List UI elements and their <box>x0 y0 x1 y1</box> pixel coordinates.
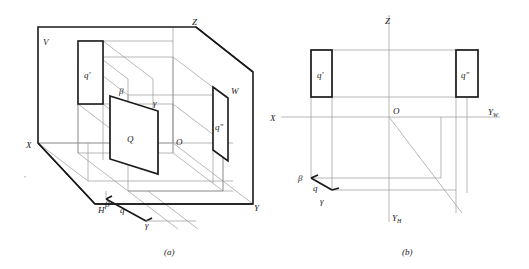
label-plane-v: V <box>43 37 50 47</box>
label-b-q-top: q <box>313 183 318 193</box>
figure-svg: V H W X Y Z O Q q' q″ q β γ β γ ' (a) <box>0 0 529 269</box>
caption-a: (a) <box>164 247 175 257</box>
label-b-beta: β <box>297 173 303 183</box>
label-b-axis-yh: YH <box>392 213 402 224</box>
label-b-axis-z: Z <box>385 16 391 26</box>
label-plane-w: W <box>231 86 240 96</box>
panel-a-group: V H W X Y Z O Q q' q″ q β γ β γ ' (a) <box>24 17 260 257</box>
label-axis-y: Y <box>254 203 260 213</box>
label-axis-z: Z <box>192 17 198 27</box>
label-b-origin: O <box>393 106 400 116</box>
label-b-q-front: q' <box>317 70 325 80</box>
caption-b: (b) <box>402 247 413 257</box>
label-q-front: q' <box>84 70 92 80</box>
label-plane-h: H <box>97 205 105 215</box>
stray-mark: ' <box>24 175 26 181</box>
label-beta-lower: β <box>104 199 110 209</box>
label-axis-x: X <box>25 140 32 150</box>
label-b-axis-yw: YW <box>488 107 499 118</box>
label-b-q-side: q″ <box>461 70 470 80</box>
label-b-axis-x: X <box>269 113 276 123</box>
label-gamma-lower: γ <box>145 220 149 230</box>
label-gamma-upper: γ <box>153 98 157 108</box>
label-q-top: q <box>120 205 125 215</box>
label-beta-upper: β <box>118 86 124 96</box>
projection-q-top-trace <box>106 196 152 221</box>
panel-b-group: X Z O YW YH q' q″ q β γ (b) <box>269 15 500 257</box>
label-q-side: q″ <box>215 122 224 132</box>
plane-q-shape <box>110 96 158 174</box>
technical-figure: V H W X Y Z O Q q' q″ q β γ β γ ' (a) <box>0 0 529 269</box>
label-origin: O <box>176 137 183 147</box>
label-plane-q: Q <box>127 134 134 144</box>
label-b-gamma: γ <box>320 196 324 206</box>
projection-q-front-rect <box>78 41 103 104</box>
